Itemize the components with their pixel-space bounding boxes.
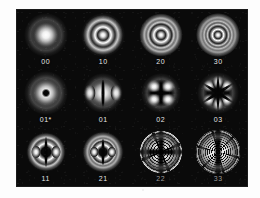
mode-pattern-21 xyxy=(81,130,125,174)
mode-label-33: 33 xyxy=(214,175,223,183)
mode-pattern-plate: 00 10 xyxy=(17,10,247,186)
mode-label-00: 00 xyxy=(41,58,50,66)
mode-label-30: 30 xyxy=(214,58,223,66)
mode-pattern-10 xyxy=(81,13,125,57)
mode-pattern-01 xyxy=(81,71,125,115)
mode-cell-22[interactable]: 22 xyxy=(132,127,190,186)
scanned-page: 00 10 xyxy=(0,0,260,198)
mode-label-10: 10 xyxy=(99,58,108,66)
mode-pattern-02 xyxy=(139,71,183,115)
mode-pattern-20 xyxy=(139,13,183,57)
mode-pattern-22 xyxy=(139,130,183,174)
mode-label-02: 02 xyxy=(156,116,165,124)
mode-pattern-00 xyxy=(24,13,68,57)
mode-cell-01-star[interactable]: 01* xyxy=(17,69,75,128)
mode-label-22: 22 xyxy=(156,175,165,183)
mode-cell-03[interactable]: 03 xyxy=(190,69,248,128)
mode-grid: 00 10 xyxy=(17,10,247,186)
mode-cell-20[interactable]: 20 xyxy=(132,10,190,69)
mode-cell-30[interactable]: 30 xyxy=(190,10,248,69)
mode-pattern-03 xyxy=(196,71,240,115)
mode-cell-11[interactable]: 11 xyxy=(17,127,75,186)
mode-pattern-11 xyxy=(24,130,68,174)
mode-cell-02[interactable]: 02 xyxy=(132,69,190,128)
mode-cell-33[interactable]: 33 xyxy=(190,127,248,186)
mode-pattern-01-star xyxy=(24,71,68,115)
mode-cell-01[interactable]: 01 xyxy=(75,69,133,128)
mode-cell-21[interactable]: 21 xyxy=(75,127,133,186)
mode-label-21: 21 xyxy=(99,175,108,183)
mode-pattern-30 xyxy=(196,13,240,57)
mode-cell-10[interactable]: 10 xyxy=(75,10,133,69)
mode-label-03: 03 xyxy=(214,116,223,124)
mode-pattern-33 xyxy=(196,130,240,174)
mode-label-11: 11 xyxy=(42,175,50,183)
mode-label-20: 20 xyxy=(156,58,165,66)
mode-label-01: 01 xyxy=(99,116,108,124)
mode-label-01-star: 01* xyxy=(40,116,52,124)
mode-cell-00[interactable]: 00 xyxy=(17,10,75,69)
